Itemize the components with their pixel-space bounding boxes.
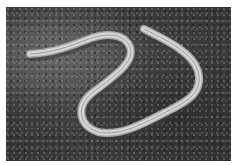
moss-photo (6, 7, 231, 161)
slow-worm (6, 7, 231, 161)
